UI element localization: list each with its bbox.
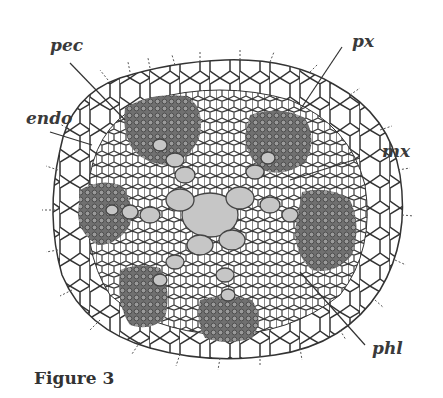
- label-px: px: [352, 33, 374, 50]
- label-endo: endo: [26, 110, 72, 127]
- label-mx: mx: [382, 143, 410, 160]
- label-phl: phl: [372, 340, 403, 357]
- label-pec: pec: [50, 37, 83, 54]
- figure-caption: Figure 3: [34, 368, 114, 388]
